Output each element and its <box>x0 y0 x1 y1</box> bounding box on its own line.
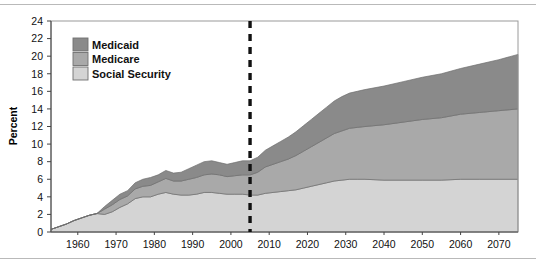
legend-label-medicare: Medicare <box>92 53 140 65</box>
y-tick-label: 16 <box>31 85 43 97</box>
y-tick-label: 10 <box>31 138 43 150</box>
y-tick-label: 4 <box>37 191 43 203</box>
y-tick-label: 22 <box>31 32 43 44</box>
legend-swatch-medicaid <box>73 38 88 51</box>
x-tick-label: 2040 <box>372 238 396 250</box>
x-tick-label: 2010 <box>258 238 282 250</box>
stacked-area-chart: 024681012141618202224 196019701980199020… <box>0 0 536 266</box>
y-tick-label: 0 <box>37 226 43 238</box>
plot-area-bands <box>51 54 518 232</box>
chart-legend: MedicaidMedicareSocial Security <box>73 38 172 80</box>
x-tick-label: 1980 <box>143 238 167 250</box>
y-axis-ticks: 024681012141618202224 <box>31 15 51 238</box>
x-tick-label: 2030 <box>334 238 358 250</box>
x-tick-label: 2020 <box>296 238 320 250</box>
y-tick-label: 2 <box>37 208 43 220</box>
x-tick-label: 2050 <box>411 238 435 250</box>
x-tick-label: 2070 <box>487 238 511 250</box>
figure-container: 024681012141618202224 196019701980199020… <box>0 0 536 266</box>
x-tick-label: 1960 <box>66 238 90 250</box>
y-tick-label: 12 <box>31 120 43 132</box>
legend-swatch-social-security <box>73 67 88 80</box>
legend-swatch-medicare <box>73 53 88 66</box>
x-tick-label: 2000 <box>219 238 243 250</box>
x-axis-ticks: 1960197019801990200020102020203020402050… <box>66 232 511 250</box>
x-tick-label: 1970 <box>104 238 128 250</box>
y-tick-label: 24 <box>31 15 43 27</box>
y-tick-label: 8 <box>37 155 43 167</box>
y-axis-title: Percent <box>7 106 19 145</box>
x-tick-label: 1990 <box>181 238 205 250</box>
legend-label-medicaid: Medicaid <box>92 39 139 51</box>
y-tick-label: 14 <box>31 103 43 115</box>
x-tick-label: 2060 <box>449 238 473 250</box>
y-tick-label: 18 <box>31 68 43 80</box>
y-tick-label: 6 <box>37 173 43 185</box>
legend-label-social-security: Social Security <box>92 68 172 80</box>
y-tick-label: 20 <box>31 50 43 62</box>
